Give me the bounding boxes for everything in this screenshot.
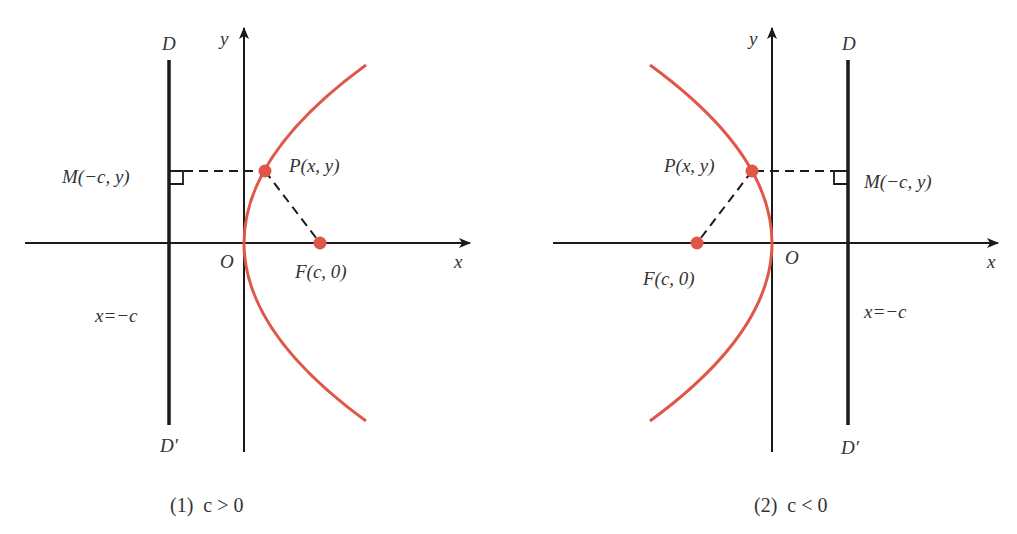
segment-pf [697,171,752,243]
caption-1: (1) c > 0 [170,494,243,517]
label-d-prime: D′ [840,437,860,458]
point-p [259,165,272,178]
label-x: x [986,251,996,272]
label-f: F(c, 0) [642,268,695,290]
label-x: x [453,251,463,272]
point-f [314,237,327,250]
right-angle-marker [834,171,847,184]
segment-pf [265,171,320,243]
diagram-canvas: D y M(−c, y) P(x, y) O F(c, 0) x x=−c D′… [0,0,1017,534]
right-angle-marker [170,171,183,184]
figure-1: D y M(−c, y) P(x, y) O F(c, 0) x x=−c D′… [25,28,470,517]
label-o: O [220,251,234,272]
label-directrix-eq: x=−c [94,305,138,326]
label-y: y [218,28,229,49]
point-f [691,237,704,250]
label-directrix-eq: x=−c [863,301,907,322]
label-p: P(x, y) [663,155,715,177]
label-d: D [161,33,176,54]
label-o: O [785,247,799,268]
figure-2: y D P(x, y) M(−c, y) O F(c, 0) x x=−c D′… [553,28,998,517]
label-d-prime: D′ [159,435,179,456]
label-d: D [841,33,856,54]
label-y: y [747,28,758,49]
caption-2: (2) c < 0 [754,494,827,517]
label-p: P(x, y) [288,155,340,177]
label-m: M(−c, y) [863,171,932,193]
label-f: F(c, 0) [294,261,347,283]
label-m: M(−c, y) [61,166,130,188]
point-p [746,165,759,178]
